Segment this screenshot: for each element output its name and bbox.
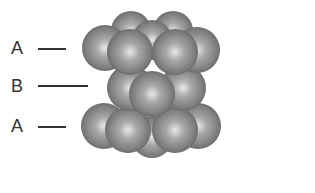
sphere [107,29,153,75]
close-packed-spheres-diagram [0,0,315,193]
sphere [129,71,175,117]
top-a-layer [82,11,220,75]
sphere [152,29,198,75]
